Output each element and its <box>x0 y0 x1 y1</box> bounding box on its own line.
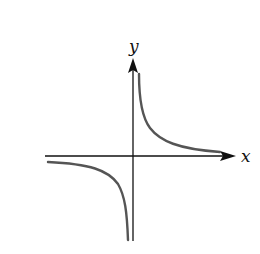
curve-branch-q1 <box>139 74 220 152</box>
curve-branch-q3 <box>48 162 128 240</box>
y-axis-label: y <box>128 36 139 56</box>
hyperbola-graph: x y <box>0 0 260 254</box>
x-axis-label: x <box>241 146 251 166</box>
